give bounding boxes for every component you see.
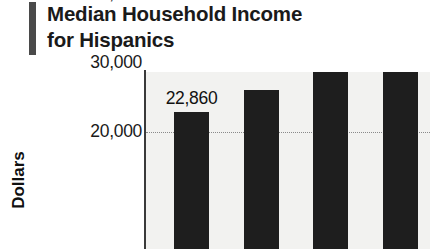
y-axis-title: Dollars [9, 140, 29, 220]
title-accent-rule [29, 2, 36, 55]
y-axis-tick-labels: 20,00030,00040,000 [58, 62, 142, 249]
bar [244, 90, 279, 249]
page-title-line-2: for Hispanics [47, 27, 417, 53]
y-tick-label: 30,000 [58, 52, 142, 73]
bar [383, 72, 418, 249]
bar-chart: Dollars 20,00030,00040,000 22,86033,565 [0, 62, 430, 249]
page-title-line-1: Median Household Income [47, 1, 417, 27]
bar [313, 72, 348, 249]
page-title: Median Household Income for Hispanics [47, 1, 417, 53]
bar [174, 112, 209, 249]
bar-value-label: 22,860 [150, 88, 234, 109]
y-tick-label: 40,000 [58, 0, 142, 4]
plot-area: 22,86033,565 [146, 72, 430, 249]
y-tick-label: 20,000 [58, 121, 142, 142]
